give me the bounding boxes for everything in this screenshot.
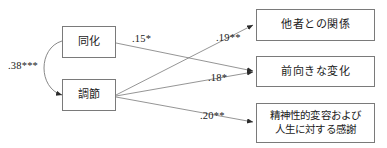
- path-diagram: 同化 調節 他者との関係 前向きな変化 精神性的変容および 人生に対する感謝 .…: [0, 0, 387, 148]
- node-assimilation[interactable]: 同化: [62, 26, 116, 58]
- node-relations-with-others[interactable]: 他者との関係: [256, 9, 375, 41]
- path-line-accommodation-spiritual: [116, 97, 253, 122]
- coefficient-accommodation-relations: .19**: [216, 32, 241, 43]
- path-line-accommodation-positive-change: [116, 72, 253, 96]
- path-line-assimilation-positive-change: [116, 43, 253, 71]
- coefficient-accommodation-positive-change: .18*: [208, 72, 227, 83]
- node-positive-change[interactable]: 前向きな変化: [256, 56, 375, 87]
- node-spiritual-change[interactable]: 精神性的変容および 人生に対する感謝: [256, 103, 375, 143]
- node-spiritual-change-label-line1: 精神性的変容および: [270, 109, 362, 123]
- node-accommodation-label: 調節: [78, 88, 101, 102]
- node-spiritual-change-label-line2: 人生に対する感謝: [275, 123, 357, 137]
- node-accommodation[interactable]: 調節: [62, 79, 116, 111]
- covariance-arc: [44, 41, 62, 95]
- node-positive-change-label: 前向きな変化: [281, 65, 350, 79]
- coefficient-covariance: .38***: [8, 60, 38, 71]
- node-relations-with-others-label: 他者との関係: [281, 18, 350, 32]
- node-assimilation-label: 同化: [78, 35, 101, 49]
- coefficient-assimilation-positive-change: .15*: [132, 33, 151, 44]
- coefficient-accommodation-spiritual: .20**: [200, 110, 225, 121]
